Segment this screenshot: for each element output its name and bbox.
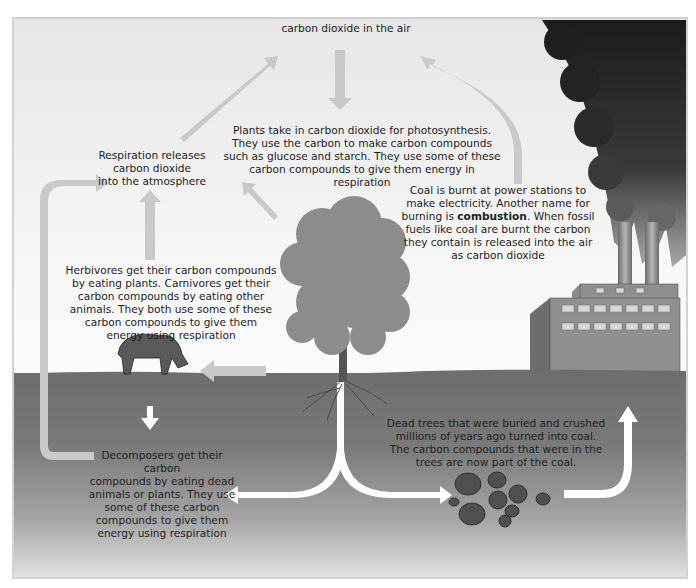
label-respiration: Respiration releases carbon dioxide into… [92,149,212,188]
label-photosynthesis: Plants take in carbon dioxide for photos… [220,124,504,189]
label-co2-air: carbon dioxide in the air [246,22,446,35]
label-decomposers: Decomposers get their carbon compounds b… [82,449,242,540]
label-fossil: Dead trees that were buried and crushed … [386,417,606,469]
label-combustion: Coal is burnt at power stations to make … [398,184,598,262]
carbon-cycle-diagram: carbon dioxide in the air Respiration re… [12,17,688,579]
tree-icon [280,196,410,420]
label-herbivores: Herbivores get their carbon compounds by… [56,264,286,342]
combustion-term: combustion [457,210,527,222]
coal-icon [449,472,550,527]
